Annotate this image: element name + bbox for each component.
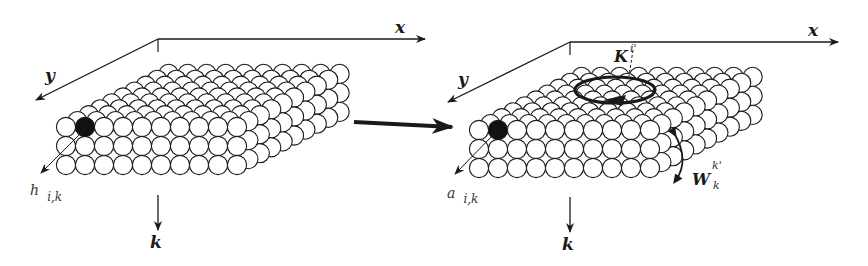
neuron <box>208 155 227 174</box>
neuron <box>564 120 583 139</box>
neuron <box>94 136 113 155</box>
right-y-axis-label: y <box>458 71 468 88</box>
left-y-axis-label: y <box>45 67 55 84</box>
neuron <box>507 158 526 177</box>
neuron <box>488 139 507 158</box>
node-label-sub: i,k <box>463 192 478 206</box>
neuron <box>602 120 621 139</box>
neuron <box>507 139 526 158</box>
neuron <box>113 155 132 174</box>
neuron <box>469 120 488 139</box>
neuron <box>526 120 545 139</box>
neuron <box>75 155 94 174</box>
neuron <box>189 155 208 174</box>
neuron <box>526 158 545 177</box>
diagram-canvas <box>0 0 868 266</box>
right-k-axis-label: k <box>562 236 574 253</box>
left-x-axis-label: x <box>395 19 405 36</box>
neuron-grid <box>56 64 349 174</box>
kernel-label-main: K <box>614 47 628 66</box>
neuron <box>94 155 113 174</box>
neuron <box>227 117 246 136</box>
neuron <box>56 155 75 174</box>
neuron <box>75 136 94 155</box>
node-label-main: h <box>30 182 39 198</box>
neuron <box>132 117 151 136</box>
weight-label-sub: k <box>713 180 720 191</box>
neuron <box>526 139 545 158</box>
neuron <box>56 136 75 155</box>
neuron <box>151 136 170 155</box>
left-k-axis-label: k <box>150 234 162 251</box>
neuron <box>545 139 564 158</box>
neuron <box>132 136 151 155</box>
left-panel-input-layer <box>36 39 425 230</box>
neuron <box>583 139 602 158</box>
neuron <box>545 120 564 139</box>
neuron <box>151 155 170 174</box>
node-label-sub: i,k <box>47 190 62 204</box>
neuron <box>94 117 113 136</box>
neuron <box>113 117 132 136</box>
neuron <box>564 158 583 177</box>
neuron <box>640 158 659 177</box>
neuron <box>189 136 208 155</box>
neuron <box>545 158 564 177</box>
neuron <box>227 155 246 174</box>
node-label-main: a <box>447 185 455 201</box>
neuron <box>56 117 75 136</box>
weight-label-sup: k' <box>712 160 722 171</box>
neuron <box>132 155 151 174</box>
neuron <box>170 117 189 136</box>
neuron <box>583 158 602 177</box>
kernel-label: K i' <box>614 49 628 65</box>
neuron <box>583 120 602 139</box>
neuron <box>621 139 640 158</box>
left-node-label: h i,k <box>30 182 62 198</box>
neuron <box>208 136 227 155</box>
right-x-axis-label: x <box>808 22 818 39</box>
weight-label-main: W <box>692 170 710 189</box>
neuron <box>621 120 640 139</box>
neuron <box>208 117 227 136</box>
neuron <box>564 139 583 158</box>
neuron <box>170 136 189 155</box>
neuron <box>621 158 640 177</box>
neuron <box>602 158 621 177</box>
neuron <box>113 136 132 155</box>
neuron <box>469 158 488 177</box>
weight-label: W k' k <box>692 172 710 188</box>
neuron <box>640 120 659 139</box>
transition-arrow <box>354 122 452 127</box>
neuron <box>151 117 170 136</box>
kernel-label-sup: i' <box>630 43 637 54</box>
neuron <box>170 155 189 174</box>
neuron <box>602 139 621 158</box>
highlighted-neuron <box>75 117 94 136</box>
right-panel-output-layer <box>448 42 838 232</box>
neuron <box>640 139 659 158</box>
right-node-label: a i,k <box>447 185 478 201</box>
neuron <box>488 158 507 177</box>
neuron <box>227 136 246 155</box>
neuron <box>189 117 208 136</box>
neuron <box>507 120 526 139</box>
